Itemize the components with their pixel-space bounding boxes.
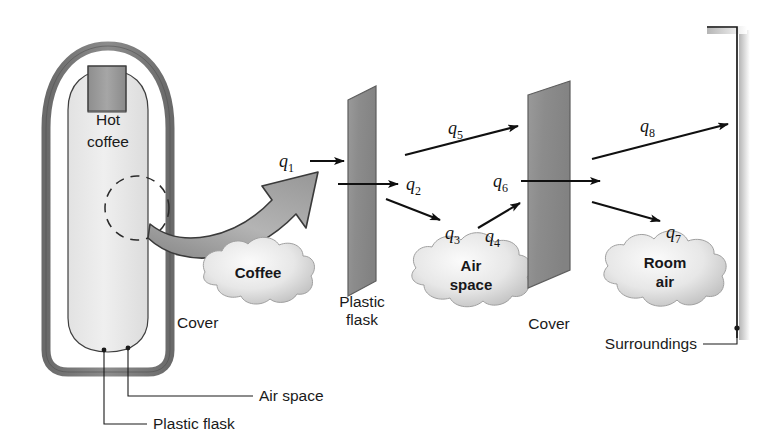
room-air-cloud-label-line1: Room [644,254,687,271]
q7-arrow [592,202,660,221]
q5-label: q5 [448,118,463,142]
q8-label: q8 [640,116,655,140]
heat-flow-q3: q3 [386,199,460,247]
heat-flow-q5: q5 [405,118,518,155]
boundary-shadow-vertical [739,30,750,340]
barrier-cover: Cover [528,81,570,332]
room-air-cloud-label-line2: air [656,273,675,290]
barrier-plastic-flask: Plastic flask [339,86,385,328]
callout-label-plastic-flask: Plastic flask [153,415,235,432]
surroundings-boundary: Surroundings [605,26,750,352]
diagram-canvas: Cover Air space Plastic flask Hot coffee… [0,0,776,446]
heat-flow-q1: q1 [279,151,344,175]
q4-arrow [478,203,520,228]
cover-plate [528,81,570,288]
thermos-heat-transfer-figure: Cover Air space Plastic flask Hot coffee… [0,0,776,446]
plastic-flask-plate-label-line1: Plastic [339,293,385,310]
q6-label: q6 [493,171,508,195]
q1-label: q1 [279,151,294,175]
hot-coffee-label-line2: coffee [87,133,129,150]
callout-label-air-space: Air space [259,387,324,404]
q3-arrow [386,199,440,220]
plastic-flask-plate [348,86,376,296]
cover-plate-label: Cover [528,315,569,332]
coffee-cloud-label: Coffee [235,264,282,281]
callout-label-cover: Cover [177,314,218,331]
q2-label: q2 [406,174,421,198]
air-space-cloud-label-line1: Air [461,257,482,274]
thermos-cap [88,66,126,111]
surroundings-leader [703,328,737,344]
heat-flow-q4: q4 [478,203,520,250]
q8-arrow [592,124,728,159]
surroundings-label: Surroundings [605,335,697,352]
node-air-space: Air space [412,233,531,307]
hot-coffee-label-line1: Hot [96,111,121,128]
air-space-cloud-label-line2: space [450,276,493,293]
plastic-flask-plate-label-line2: flask [346,311,378,328]
heat-flow-q8: q8 [592,116,728,159]
node-room-air: Room air [604,231,726,306]
